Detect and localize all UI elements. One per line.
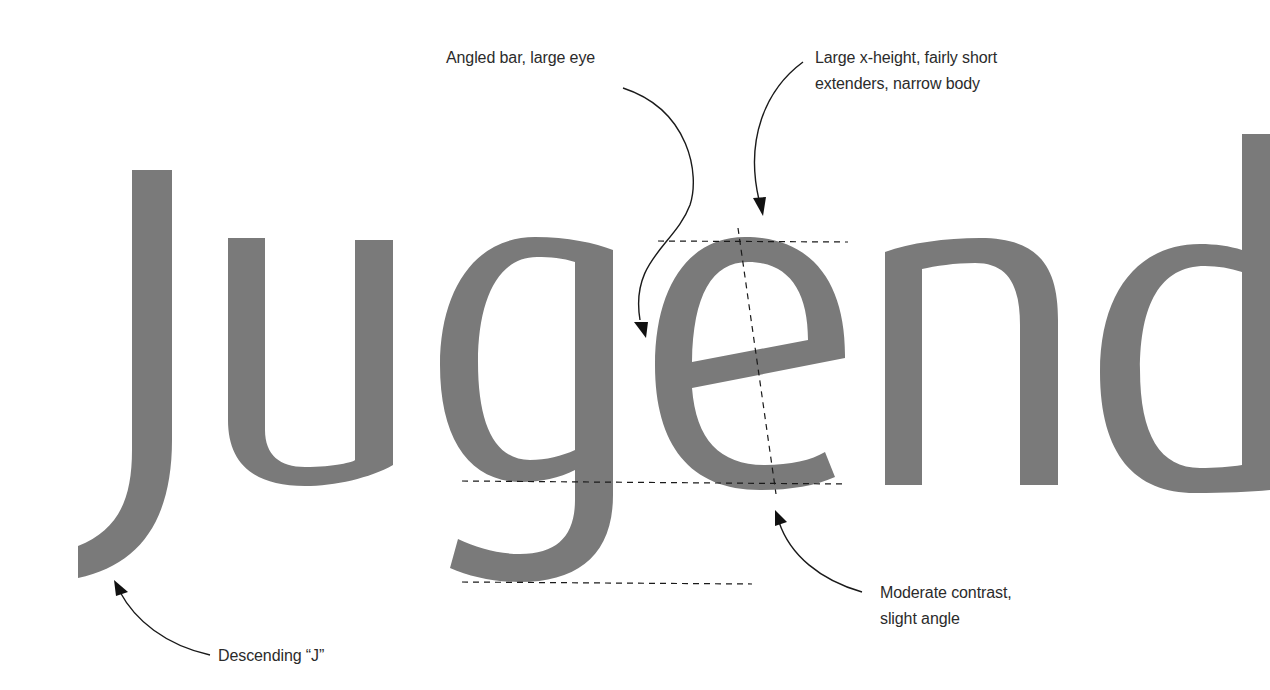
annotation-descending-j: Descending “J” [218, 643, 324, 669]
glyph-J [78, 170, 172, 578]
typography-specimen-diagram: Angled bar, large eye Large x-height, fa… [0, 0, 1270, 690]
glyph-u [228, 238, 393, 486]
arrow-descending-j [120, 592, 210, 655]
annotation-angled-bar: Angled bar, large eye [446, 45, 595, 71]
annotation-text: Large x-height, fairly short [815, 45, 997, 71]
annotation-text: extenders, narrow body [815, 71, 997, 97]
specimen-artwork [0, 0, 1270, 690]
arrow-x-height [755, 62, 803, 200]
annotation-x-height: Large x-height, fairly short extenders, … [815, 45, 997, 97]
annotation-text: slight angle [880, 606, 1012, 632]
annotation-text: Angled bar, large eye [446, 45, 595, 71]
annotation-contrast: Moderate contrast, slight angle [880, 580, 1012, 632]
arrowhead-x-height-icon [753, 197, 766, 216]
arrowhead-descending-j-icon [114, 580, 128, 596]
arrowhead-contrast-icon [775, 510, 787, 526]
annotation-text: Descending “J” [218, 643, 324, 669]
glyph-g [440, 237, 613, 582]
descender-guide [462, 582, 752, 584]
arrow-contrast [779, 522, 862, 592]
glyph-e [655, 237, 845, 490]
glyph-n [885, 238, 1058, 485]
glyph-d [1100, 134, 1270, 493]
arrowhead-angled-bar-icon [634, 322, 648, 338]
annotation-text: Moderate contrast, [880, 580, 1012, 606]
